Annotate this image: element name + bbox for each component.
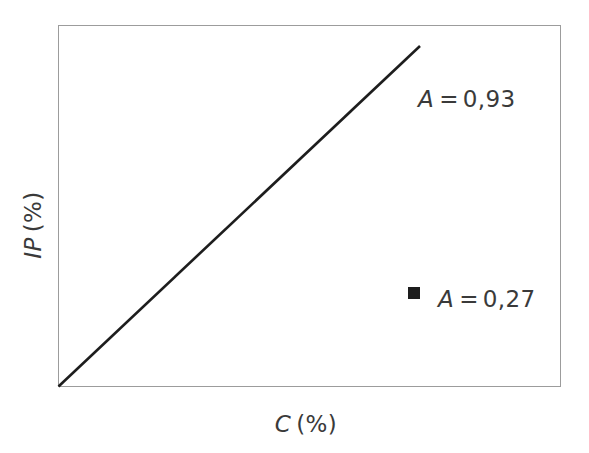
annotation-line-equals: =	[439, 86, 459, 112]
figure-container: A=0,93 A=0,27 IP(%) C(%)	[0, 0, 589, 453]
x-axis-label-unit: (%)	[296, 411, 337, 437]
x-axis-label-var: C	[275, 411, 291, 437]
y-axis-label-unit: (%)	[20, 191, 46, 232]
annotation-point-var: A	[438, 286, 454, 312]
annotation-point-series: A=0,27	[438, 288, 536, 311]
annotation-line-value: 0,93	[463, 86, 516, 112]
y-axis-label: IP(%)	[22, 191, 45, 258]
plot-frame	[58, 25, 561, 387]
annotation-line-var: A	[418, 86, 434, 112]
x-axis-label: C(%)	[275, 413, 337, 436]
y-axis-label-var: IP	[20, 237, 46, 258]
annotation-line-series: A=0,93	[418, 88, 516, 111]
annotation-point-equals: =	[459, 286, 479, 312]
series-marker-square-icon	[408, 287, 420, 299]
annotation-point-value: 0,27	[483, 286, 536, 312]
